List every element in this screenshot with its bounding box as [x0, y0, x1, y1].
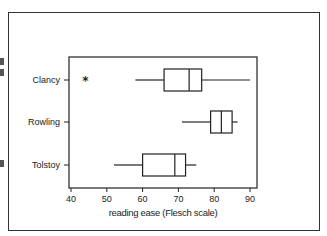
x-axis-label: reading ease (Flesch scale) — [109, 207, 218, 218]
outlier-marker: * — [82, 74, 89, 88]
x-tick-label: 40 — [66, 194, 76, 204]
boxplot-chart: 405060708090reading ease (Flesch scale)C… — [0, 0, 327, 236]
x-tick-label: 80 — [209, 194, 219, 204]
x-tick-label: 60 — [138, 194, 148, 204]
box — [164, 69, 202, 91]
y-tick-label: Tolstoy — [32, 160, 61, 170]
box — [143, 154, 186, 176]
y-tick-label: Clancy — [32, 75, 60, 85]
x-tick-label: 70 — [173, 194, 183, 204]
y-tick-label: Rowling — [28, 117, 60, 127]
x-tick-label: 50 — [102, 194, 112, 204]
x-tick-label: 90 — [245, 194, 255, 204]
